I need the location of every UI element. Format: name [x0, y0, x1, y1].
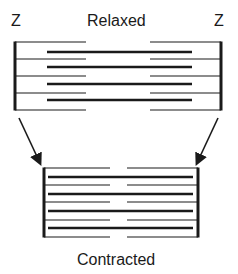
- relaxed-sarcomere: [15, 42, 221, 111]
- contracted-sarcomere: [44, 168, 198, 238]
- sarcomere-diagram: [0, 0, 238, 274]
- arrow-left-icon: [19, 118, 40, 163]
- contraction-arrows: [19, 118, 218, 163]
- arrow-right-icon: [197, 118, 218, 163]
